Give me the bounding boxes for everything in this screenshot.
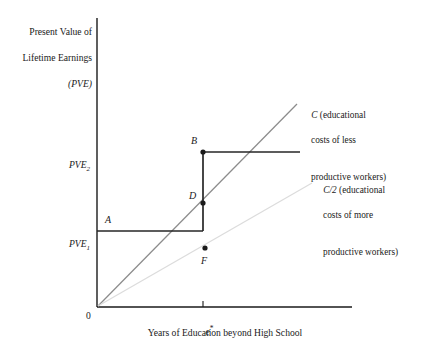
y-tick-pve2-sub: 2 [87,164,91,172]
y-axis-title: Present Value of Lifetime Earnings (PVE) [6,12,92,103]
x-tick-estar-label: e* [196,310,214,350]
point-label-f: F [201,255,207,268]
point-d-marker [200,200,205,205]
curve-note-c-half-line3: productive workers) [314,246,434,258]
curve-note-c-line1: (educational [318,110,366,120]
curve-note-c-half-line2: costs of more [314,209,434,221]
curve-name-c-half: C/2 [323,185,336,195]
y-tick-pve1-sub: 1 [87,243,91,251]
y-axis-title-line2: Lifetime Earnings [22,52,92,63]
curve-note-c-half-line1: (educational [337,185,385,195]
y-tick-pve2: PVE2 [46,146,90,187]
y-axis-title-line3: (PVE) [68,78,92,89]
x-axis-title: Years of Education beyond High School [97,327,353,340]
point-f-marker [202,245,207,250]
cost-curve-c [98,104,297,306]
curve-note-c-half: C/2 (educational costs of more productiv… [314,172,434,284]
y-axis-title-line1: Present Value of [29,26,92,37]
y-tick-pve2-text: PVE [69,159,87,170]
x-tick-origin: 0 [86,310,91,323]
point-b-marker [200,149,205,154]
point-label-a: A [105,214,111,227]
x-tick-estar-sup: * [210,324,214,333]
y-tick-pve1-text: PVE [69,238,87,249]
signaling-model-figure: Present Value of Lifetime Earnings (PVE)… [0,0,443,350]
curve-note-c-line2: costs of less [302,134,422,146]
point-label-b: B [191,135,197,148]
point-label-d: D [189,190,196,203]
y-tick-pve1: PVE1 [46,225,90,266]
